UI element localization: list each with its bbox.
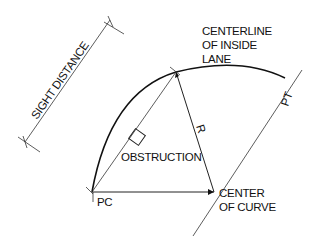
tick-mark bbox=[104, 22, 124, 34]
pt-label: PT bbox=[279, 90, 295, 108]
tick-mark bbox=[18, 137, 40, 152]
center-label-2: OF CURVE bbox=[219, 201, 276, 213]
sight-distance-label: SIGHT DISTANCE bbox=[29, 39, 92, 121]
tick-mark bbox=[23, 136, 27, 148]
radius-label: R bbox=[194, 123, 208, 134]
sight-distance-dimension bbox=[25, 20, 110, 142]
radius-line bbox=[176, 72, 214, 192]
centerline-curve bbox=[92, 65, 285, 192]
sight-distance-diagram: SIGHT DISTANCE CENTERLINE OF INSIDE LANE… bbox=[0, 0, 309, 242]
obstruction-label: OBSTRUCTION bbox=[121, 151, 201, 163]
sight-line bbox=[92, 72, 176, 192]
centerline-label-1: CENTERLINE bbox=[202, 25, 272, 37]
centerline-label-2: OF INSIDE bbox=[202, 39, 257, 51]
center-label-1: CENTER bbox=[219, 187, 264, 199]
pc-label: PC bbox=[97, 196, 112, 208]
obstruction-square bbox=[129, 129, 146, 146]
centerline-label-3: LANE bbox=[202, 53, 231, 65]
